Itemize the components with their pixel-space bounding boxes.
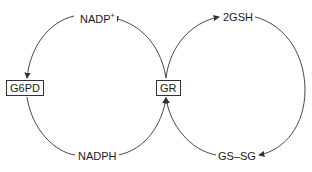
- arc-nadph-to-gr: [118, 98, 166, 155]
- arc-nadp-to-g6pd: [27, 16, 74, 78]
- arc-g6pd-to-nadph: [27, 97, 75, 155]
- arc-gr-to-2gsh: [166, 17, 219, 78]
- arc-2gsh-to-gssg: [252, 16, 305, 155]
- nadp-superscript: +: [111, 12, 115, 19]
- node-gssg: GS–SG: [216, 150, 258, 162]
- arc-gssg-to-gr: [166, 98, 216, 155]
- node-nadph: NADPH: [76, 150, 119, 162]
- nadp-label: NADP: [80, 13, 111, 25]
- node-g6pd: G6PD: [6, 80, 44, 96]
- arc-gr-to-nadp: [113, 18, 166, 78]
- node-nadp-plus: NADP+: [78, 10, 117, 25]
- node-2gsh: 2GSH: [221, 11, 255, 23]
- node-gr: GR: [156, 80, 181, 96]
